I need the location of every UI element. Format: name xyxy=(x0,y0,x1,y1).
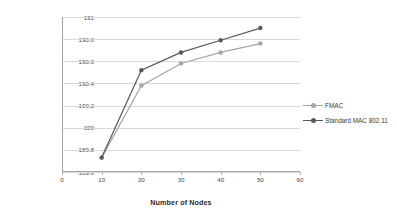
data-point-marker xyxy=(139,83,143,87)
series-plot xyxy=(62,17,300,172)
data-point-marker xyxy=(218,38,222,42)
x-tick-mark xyxy=(181,172,182,175)
data-point-marker xyxy=(179,61,183,65)
x-tick-mark xyxy=(102,172,103,175)
series-line xyxy=(102,44,261,158)
x-tick-mark xyxy=(260,172,261,175)
x-tick-label: 10 xyxy=(87,176,117,183)
x-tick-mark xyxy=(221,172,222,175)
x-tick-mark xyxy=(62,172,63,175)
x-tick-label: 40 xyxy=(206,176,236,183)
legend-item[interactable]: Standard MAC 802.11 xyxy=(303,113,397,128)
legend-label: FMAC xyxy=(325,101,343,110)
x-axis-title: Number of Nodes xyxy=(62,198,300,207)
series-line xyxy=(102,28,261,158)
data-point-marker xyxy=(179,50,183,54)
x-tick-label: 60 xyxy=(285,176,315,183)
data-point-marker xyxy=(218,50,222,54)
data-point-marker xyxy=(99,155,103,159)
x-tick-label: 30 xyxy=(166,176,196,183)
legend-item[interactable]: FMAC xyxy=(303,98,397,113)
data-point-marker xyxy=(258,26,262,30)
chart-legend: FMACStandard MAC 802.11 xyxy=(303,98,397,128)
x-tick-label: 0 xyxy=(47,176,77,183)
legend-marker-icon xyxy=(303,101,323,110)
data-point-marker xyxy=(258,41,262,45)
x-tick-mark xyxy=(300,172,301,175)
plot-area xyxy=(62,17,300,172)
x-tick-label: 50 xyxy=(245,176,275,183)
chart-container: Average Energy Consumed (mJ) 189.6189.81… xyxy=(0,0,397,219)
x-tick-mark xyxy=(141,172,142,175)
data-point-marker xyxy=(139,68,143,72)
x-tick-label: 20 xyxy=(126,176,156,183)
legend-label: Standard MAC 802.11 xyxy=(325,116,388,125)
legend-marker-icon xyxy=(303,116,323,125)
